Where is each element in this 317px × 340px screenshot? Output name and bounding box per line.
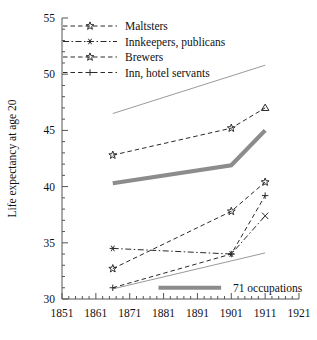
series-path-maltsters [113,108,265,155]
triangle-marker [261,104,269,110]
legend-item-innkeepers-publicans[interactable]: Innkeepers, publicans [63,36,226,49]
series-path-inn-hotel-servants [113,196,265,288]
datapoint-innkeepers-publicans-1866 [110,246,116,252]
y-tick-label: 45 [44,124,56,136]
legend-label: Inn, hotel servants [125,67,210,80]
datapoint-inn-hotel-servants-1911 [262,192,268,198]
y-tick-label: 50 [44,68,56,80]
legend-label: Maltsters [125,20,168,32]
datapoint-maltsters-1911 [261,104,269,110]
legend-item-brewers[interactable]: Brewers [63,51,164,63]
y-tick-label: 40 [44,181,56,193]
x-tick-label: 1861 [84,307,107,319]
datapoint-innkeepers-publicans-1911 [262,213,268,219]
x-tick-label: 1891 [186,307,209,319]
x-tick-label: 1921 [288,307,311,319]
annotation-71-occupations: 71 occupations [158,282,302,295]
y-tick-label: 30 [44,293,56,305]
reference-line-71-occupations [113,130,265,183]
chart-container: 3035404550551851186118711881189119011911… [0,0,317,340]
line-chart: 3035404550551851186118711881189119011911… [0,0,317,340]
x-tick-label: 1881 [152,307,175,319]
x-tick-label: 1871 [118,307,141,319]
legend-marker [87,39,93,45]
y-axis-label: Life expectancy at age 20 [6,99,19,217]
y-tick-label: 55 [44,12,56,24]
legend-item-inn-hotel-servants[interactable]: Inn, hotel servants [63,67,210,80]
legend-label: Brewers [125,51,164,63]
x-tick-label: 1911 [254,307,277,319]
x-tick-label: 1851 [51,307,74,319]
datapoint-inn-hotel-servants-1866 [110,285,116,291]
legend-item-maltsters[interactable]: Maltsters [63,20,168,32]
series-inn-hotel-servants [110,192,269,291]
x-tick-label: 1901 [220,307,243,319]
legend-label: Innkeepers, publicans [125,36,226,49]
series-innkeepers-publicans [110,213,269,257]
series-path-brewers [113,182,265,269]
legend-marker [87,69,93,75]
annotation-label: 71 occupations [233,282,303,295]
y-tick-label: 35 [44,237,56,249]
